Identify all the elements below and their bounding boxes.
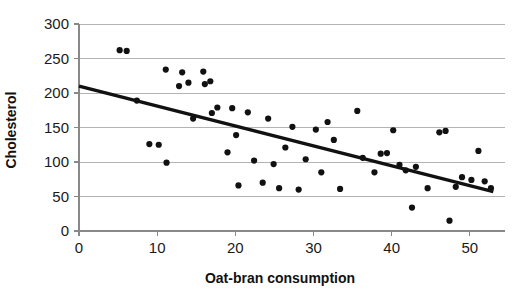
data-point-47	[442, 128, 448, 134]
data-point-25	[276, 185, 282, 191]
data-point-39	[384, 150, 390, 156]
data-point-44	[413, 164, 419, 170]
data-point-50	[459, 174, 465, 180]
data-point-38	[378, 151, 384, 157]
x-axis-tick-labels: 01020304050	[75, 239, 478, 256]
x-tick-label-30: 30	[305, 239, 322, 256]
data-point-32	[324, 119, 330, 125]
data-point-5	[163, 66, 169, 72]
data-point-11	[200, 69, 206, 75]
y-tick-label-250: 250	[44, 50, 69, 67]
data-point-27	[289, 124, 295, 130]
data-point-33	[331, 137, 337, 143]
x-tick-label-10: 10	[149, 239, 166, 256]
data-point-1	[124, 48, 130, 54]
data-point-12	[202, 81, 208, 87]
data-point-52	[475, 148, 481, 154]
chart-canvas: 050100150200250300 01020304050 Oat-bran …	[0, 0, 520, 293]
trendline-segment	[79, 86, 493, 192]
data-point-9	[185, 80, 191, 86]
data-point-40	[390, 127, 396, 133]
data-point-43	[409, 204, 415, 210]
data-point-28	[296, 187, 302, 193]
data-point-0	[117, 47, 123, 53]
data-point-24	[271, 161, 277, 167]
data-point-46	[436, 129, 442, 135]
y-tick-label-0: 0	[61, 222, 69, 239]
data-point-30	[313, 126, 319, 132]
trendline	[79, 86, 493, 192]
data-point-26	[282, 144, 288, 150]
y-tick-label-300: 300	[44, 15, 69, 32]
data-point-31	[318, 169, 324, 175]
tick-marks-group	[74, 24, 470, 236]
data-point-49	[453, 184, 459, 190]
data-point-18	[233, 132, 239, 138]
data-point-20	[245, 109, 251, 115]
x-tick-label-20: 20	[227, 239, 244, 256]
data-point-13	[207, 78, 213, 84]
data-point-23	[265, 115, 271, 121]
y-axis-tick-labels: 050100150200250300	[44, 15, 69, 239]
x-tick-label-50: 50	[461, 239, 478, 256]
data-point-16	[224, 149, 230, 155]
data-point-15	[214, 104, 220, 110]
data-point-29	[303, 156, 309, 162]
y-tick-label-200: 200	[44, 84, 69, 101]
data-point-53	[482, 178, 488, 184]
data-point-6	[163, 160, 169, 166]
x-axis-title: Oat-bran consumption	[205, 270, 355, 286]
y-tick-label-150: 150	[44, 119, 69, 136]
data-point-7	[176, 83, 182, 89]
data-point-37	[371, 169, 377, 175]
scatter-plot-figure: 050100150200250300 01020304050 Oat-bran …	[0, 0, 520, 293]
data-point-22	[260, 180, 266, 186]
data-points-group	[117, 47, 494, 224]
data-point-8	[179, 69, 185, 75]
y-tick-label-50: 50	[52, 188, 69, 205]
data-point-3	[146, 141, 152, 147]
x-tick-label-0: 0	[75, 239, 83, 256]
data-point-17	[229, 105, 235, 111]
data-point-21	[251, 158, 257, 164]
data-point-4	[156, 142, 162, 148]
y-tick-label-100: 100	[44, 153, 69, 170]
data-point-19	[235, 182, 241, 188]
data-point-14	[209, 110, 215, 116]
data-point-51	[468, 177, 474, 183]
data-point-34	[337, 186, 343, 192]
x-tick-label-40: 40	[383, 239, 400, 256]
y-axis-title: Cholesterol	[3, 91, 19, 168]
data-point-45	[425, 185, 431, 191]
data-point-35	[354, 108, 360, 114]
data-point-48	[446, 218, 452, 224]
